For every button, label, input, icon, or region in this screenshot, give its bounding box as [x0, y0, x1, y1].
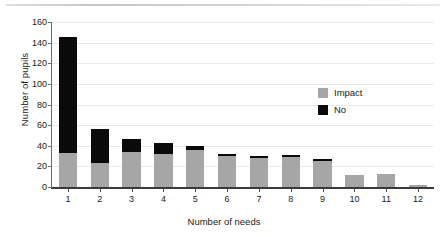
x-tick-mark: [163, 188, 164, 192]
bar-segment-impact[interactable]: [154, 154, 172, 187]
y-tick-label: 140: [32, 38, 47, 47]
y-tick-label: 40: [37, 141, 47, 150]
x-tick-label: 7: [256, 194, 261, 204]
legend-item[interactable]: No: [318, 104, 363, 115]
bar-group[interactable]: [186, 146, 204, 187]
bar-group[interactable]: [345, 175, 363, 187]
bar-group[interactable]: [313, 159, 331, 187]
y-tick-label: 0: [42, 183, 47, 192]
bar-group[interactable]: [409, 185, 427, 187]
x-tick-label: 2: [97, 194, 102, 204]
bar-segment-impact[interactable]: [282, 157, 300, 187]
x-axis-line: [51, 187, 434, 189]
bar-group[interactable]: [218, 154, 236, 187]
x-tick-label: 8: [288, 194, 293, 204]
x-tick-label: 5: [193, 194, 198, 204]
x-tick-label: 11: [382, 194, 391, 204]
legend-label: No: [334, 105, 346, 115]
bar-segment-impact[interactable]: [313, 161, 331, 187]
y-tick-label: 100: [32, 79, 47, 88]
bar-group[interactable]: [282, 155, 300, 187]
bar-segment-impact[interactable]: [122, 152, 140, 187]
x-tick-mark: [100, 188, 101, 192]
x-tick-label: 6: [225, 194, 230, 204]
x-tick-label: 3: [129, 194, 134, 204]
bar-segment-no[interactable]: [59, 37, 77, 153]
x-tick-mark: [354, 188, 355, 192]
bar-segment-impact[interactable]: [91, 163, 109, 187]
bar-segment-impact[interactable]: [218, 156, 236, 187]
bar-group[interactable]: [250, 156, 268, 187]
bar-series-container: [52, 22, 434, 187]
bar-segment-impact[interactable]: [345, 175, 363, 187]
x-tick-mark: [323, 188, 324, 192]
plot-area: 020406080100120140160 123456789101112: [52, 22, 434, 187]
y-axis-title: Number of pupils: [19, 20, 30, 160]
bar-segment-impact[interactable]: [59, 153, 77, 187]
legend-item[interactable]: Impact: [318, 87, 363, 98]
bar-segment-no[interactable]: [154, 143, 172, 154]
x-tick-mark: [259, 188, 260, 192]
x-tick-label: 9: [320, 194, 325, 204]
x-axis-title: Number of needs: [0, 216, 448, 227]
bar-group[interactable]: [91, 129, 109, 187]
bar-group[interactable]: [59, 37, 77, 187]
y-tick-label: 20: [37, 162, 47, 171]
bar-group[interactable]: [377, 174, 395, 187]
chart-legend: ImpactNo: [318, 87, 363, 121]
x-tick-mark: [68, 188, 69, 192]
bar-segment-no[interactable]: [91, 129, 109, 163]
y-tick-label: 160: [32, 18, 47, 27]
bar-segment-impact[interactable]: [377, 174, 395, 187]
x-tick-mark: [386, 188, 387, 192]
x-tick-label: 1: [65, 194, 70, 204]
x-tick-label: 12: [413, 194, 423, 204]
y-tick-label: 80: [37, 100, 47, 109]
legend-swatch-icon: [318, 105, 328, 115]
chart-figure: Number of pupils Number of needs 0204060…: [0, 0, 448, 237]
y-tick-label: 120: [32, 59, 47, 68]
x-tick-mark: [291, 188, 292, 192]
x-tick-mark: [227, 188, 228, 192]
bar-segment-impact[interactable]: [250, 158, 268, 187]
x-tick-mark: [418, 188, 419, 192]
bar-segment-impact[interactable]: [409, 185, 427, 187]
bar-segment-no[interactable]: [122, 139, 140, 152]
legend-label: Impact: [334, 88, 363, 98]
x-tick-mark: [132, 188, 133, 192]
x-tick-mark: [195, 188, 196, 192]
y-tick-label: 60: [37, 121, 47, 130]
y-tick-mark: [48, 187, 52, 188]
x-tick-label: 10: [349, 194, 359, 204]
bar-group[interactable]: [154, 143, 172, 187]
x-tick-label: 4: [161, 194, 166, 204]
legend-swatch-icon: [318, 88, 328, 98]
bar-group[interactable]: [122, 139, 140, 187]
scan-artifact-line: [6, 4, 440, 6]
bar-segment-impact[interactable]: [186, 150, 204, 187]
